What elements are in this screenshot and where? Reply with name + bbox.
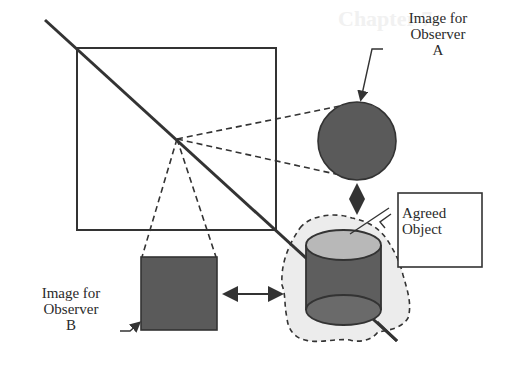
observer-b-label: Image for Observer B [26,285,116,333]
observer-a-label: Image for Observer A [398,10,478,58]
projection-line-a-top [177,106,340,139]
agreed-object-label: Agreed Object [402,205,480,237]
observer-b-image-square [141,257,217,330]
observer-a-image-circle [318,102,396,180]
diagram-canvas: Chapter 7 [0,0,516,365]
observer-a-label-line1: Image for [398,10,478,26]
observer-b-label-line2: Observer [26,301,116,317]
agreed-object-label-line2: Object [402,221,480,237]
projection-line-b-left [142,139,177,257]
projection-line-a-bottom [177,139,340,175]
observer-a-leader-arrow [361,49,383,99]
agreed-leader-arrow [380,214,391,228]
observer-b-leader-arrow [120,323,139,331]
observer-a-label-line2: Observer [398,26,478,42]
observer-a-label-line3: A [398,42,478,58]
agreed-object-label-line1: Agreed [402,205,480,221]
observer-b-label-line1: Image for [26,285,116,301]
agreed-object-cylinder [306,230,381,325]
observer-b-label-line3: B [26,317,116,333]
